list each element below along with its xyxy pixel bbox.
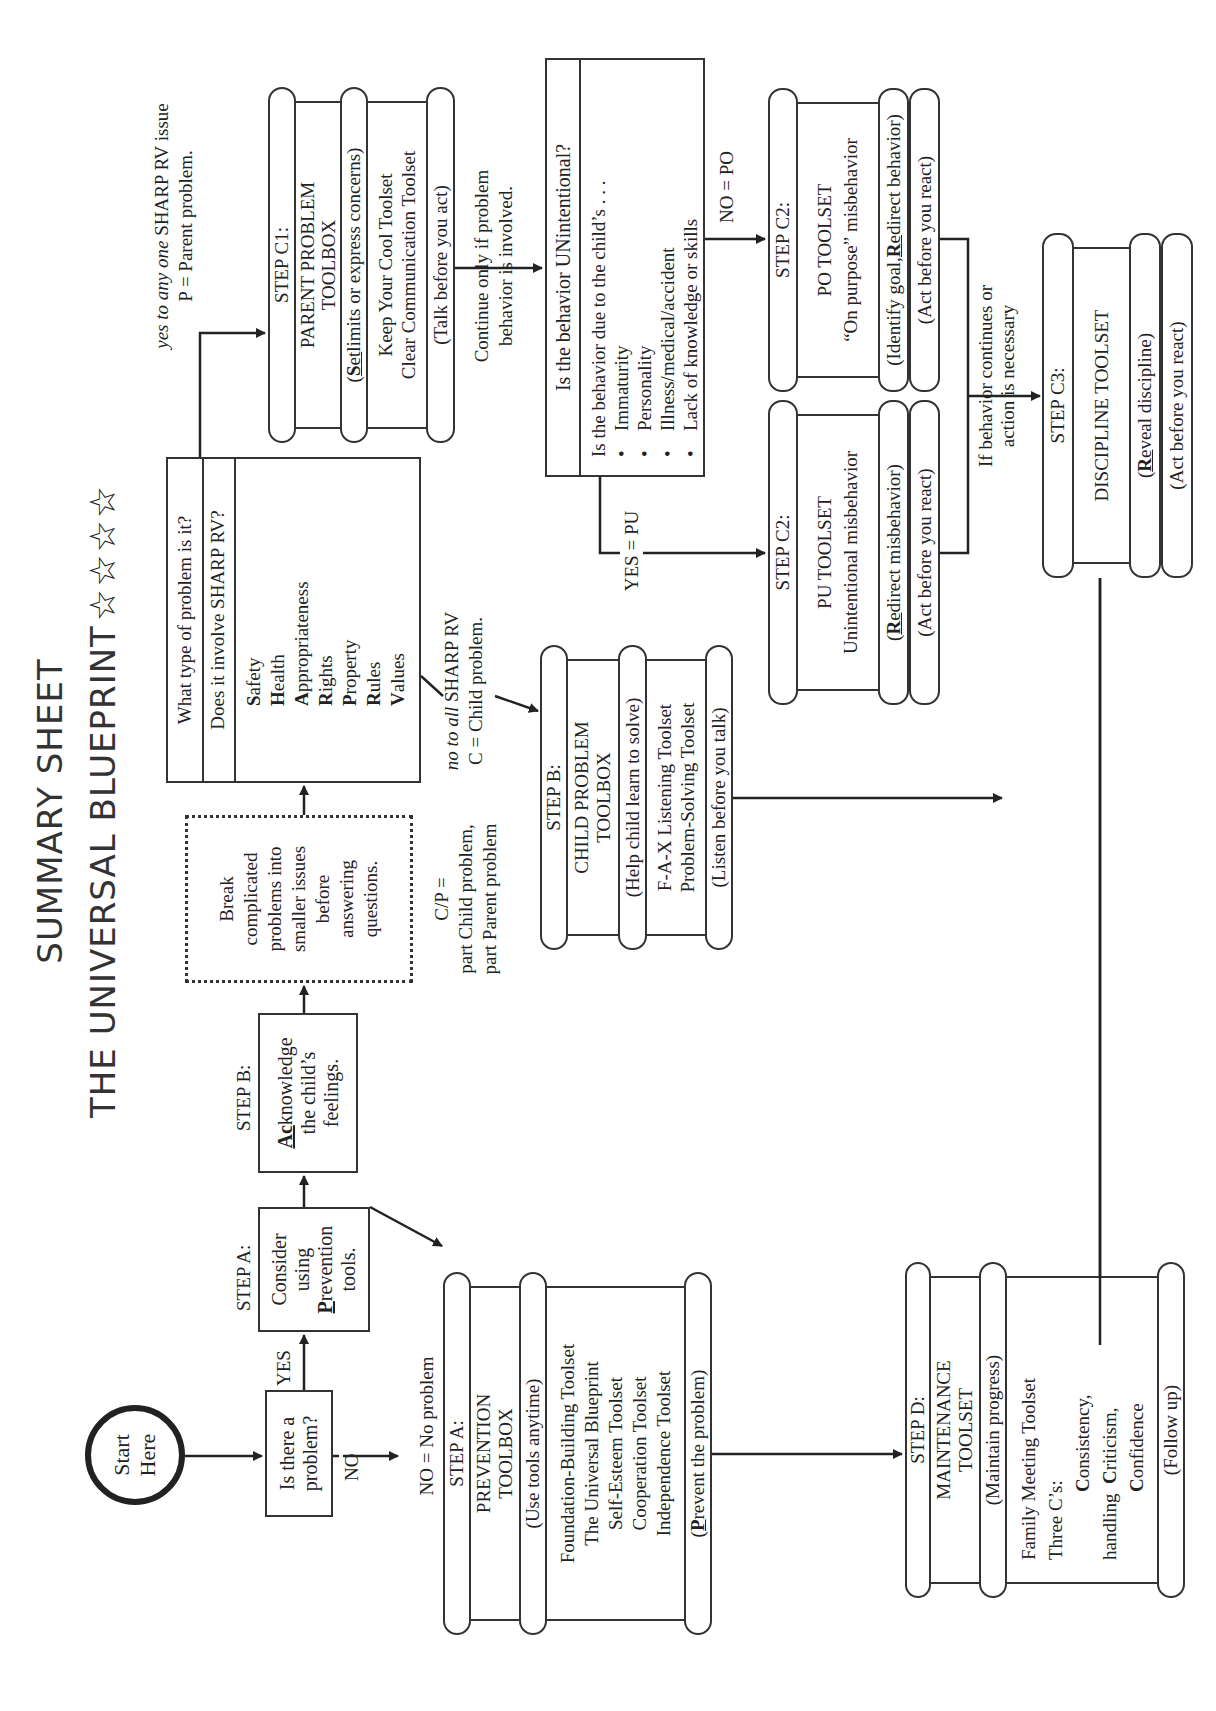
flowchart-canvas: SUMMARY SHEET THE UNIVERSAL BLUEPRINT ☆☆… <box>0 0 1216 1711</box>
connector-lines-lower <box>0 0 1216 1711</box>
